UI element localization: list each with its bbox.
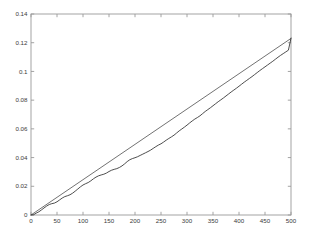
y-tick-label: 0.06 xyxy=(15,125,28,132)
y-tick-label: 0.04 xyxy=(15,154,28,161)
x-tick-label: 450 xyxy=(260,217,271,224)
x-tick-label: 300 xyxy=(182,217,193,224)
x-tick-label: 50 xyxy=(54,217,61,224)
figure-canvas: 05010015020025030035040045050000.020.040… xyxy=(0,0,312,246)
x-tick-label: 350 xyxy=(208,217,219,224)
y-tick-label: 0.14 xyxy=(15,10,28,17)
x-tick-label: 500 xyxy=(286,217,297,224)
y-tick-label: 0.08 xyxy=(15,96,28,103)
plot-area: 05010015020025030035040045050000.020.040… xyxy=(15,10,296,224)
x-tick-label: 0 xyxy=(29,217,33,224)
y-tick-label: 0.1 xyxy=(19,68,28,75)
axis-box xyxy=(31,14,291,215)
y-tick-label: 0.02 xyxy=(15,182,28,189)
series-smooth-reference-line xyxy=(31,38,291,215)
line-chart: 05010015020025030035040045050000.020.040… xyxy=(0,0,312,246)
y-tick-label: 0 xyxy=(24,211,28,218)
y-tick-label: 0.12 xyxy=(15,39,28,46)
x-tick-label: 150 xyxy=(104,217,115,224)
x-tick-label: 100 xyxy=(78,217,89,224)
x-tick-label: 200 xyxy=(130,217,141,224)
x-tick-label: 400 xyxy=(234,217,245,224)
x-tick-label: 250 xyxy=(156,217,167,224)
